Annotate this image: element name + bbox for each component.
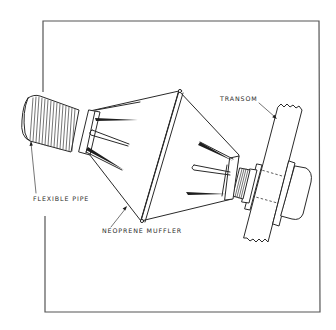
- label-neoprene-muffler: NEOPRENE MUFFLER: [102, 227, 182, 234]
- label-transom: TRANSOM: [219, 95, 258, 102]
- muffler-diagram: FLEXIBLE PIPE NEOPRENE MUFFLER TRANSOM: [0, 0, 336, 330]
- label-flexible-pipe: FLEXIBLE PIPE: [33, 195, 89, 202]
- neoprene-muffler: [79, 89, 239, 222]
